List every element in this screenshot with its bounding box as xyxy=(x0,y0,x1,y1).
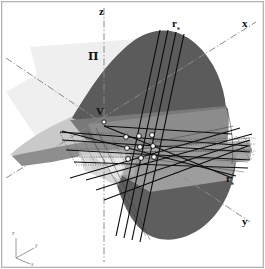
intersection-point xyxy=(150,133,155,138)
intersection-point xyxy=(125,146,130,151)
triad-label-x: x xyxy=(31,262,34,267)
intersection-point xyxy=(137,134,142,139)
intersection-point xyxy=(152,155,157,160)
ruling-label-lower: rs xyxy=(226,173,234,187)
vertex-label-v: V xyxy=(96,106,104,117)
intersection-point xyxy=(126,157,131,162)
axis-label-z: z xyxy=(99,6,104,17)
axis-label-x: x xyxy=(242,18,248,29)
triad-label-y: y xyxy=(35,243,38,248)
figure-container: z x y Π V rs rs z y x xyxy=(0,0,265,269)
intersection-points xyxy=(124,133,157,162)
intersection-point xyxy=(139,156,144,161)
vertex-point xyxy=(102,120,106,124)
ruling-label-upper: rs xyxy=(172,18,180,32)
plane-label-pi: Π xyxy=(88,51,98,62)
axis-label-y: y xyxy=(242,216,248,227)
surface-diagram-svg xyxy=(0,0,265,269)
intersection-point xyxy=(124,135,129,140)
ruling-label-lower-sub: s xyxy=(231,179,234,186)
intersection-point xyxy=(138,145,143,150)
triad-label-z: z xyxy=(12,231,15,236)
intersection-point xyxy=(151,144,156,149)
ruling-label-upper-sub: s xyxy=(177,24,180,31)
